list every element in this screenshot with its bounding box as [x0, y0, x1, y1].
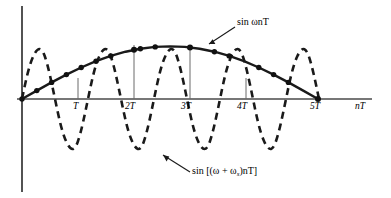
sample-point — [49, 80, 54, 85]
sample-point — [286, 80, 291, 85]
x-axis-label: nT — [355, 101, 365, 111]
sample-point — [19, 96, 24, 101]
sample-point — [34, 88, 39, 93]
x-tick-label-5T: 5T — [310, 101, 320, 111]
sample-point — [153, 44, 158, 49]
annotation-leader-carrier — [163, 155, 190, 172]
sample-point — [79, 65, 84, 70]
sample-point-group — [19, 44, 321, 102]
curve-label-carrier: sin [(ω + ωs)nT] — [192, 166, 257, 178]
sample-point — [131, 47, 137, 53]
sample-point — [64, 72, 69, 77]
curve-label-envelope: sin ωnT — [237, 17, 269, 27]
sample-point — [187, 45, 193, 51]
x-tick-label-3T: 3T — [181, 101, 191, 111]
sample-point — [108, 53, 113, 58]
x-tick-label-T: T — [73, 101, 78, 111]
sample-point — [271, 72, 276, 77]
sample-point — [138, 46, 143, 51]
figure-sampled-sine-aliasing: T 2T 3T 4T 5T nT sin ωnT sin [(ω + ωs)nT… — [0, 0, 391, 198]
sample-point — [227, 53, 232, 58]
carrier-label-suffix: )nT] — [239, 165, 257, 176]
carrier-label-prefix: sin [(ω + ω — [192, 165, 237, 176]
x-tick-label-2T: 2T — [125, 101, 135, 111]
sample-point — [93, 59, 98, 64]
sample-point — [212, 49, 217, 54]
annotation-leader-envelope — [209, 27, 235, 44]
x-tick-label-4T: 4T — [237, 101, 247, 111]
sample-point — [256, 65, 261, 70]
